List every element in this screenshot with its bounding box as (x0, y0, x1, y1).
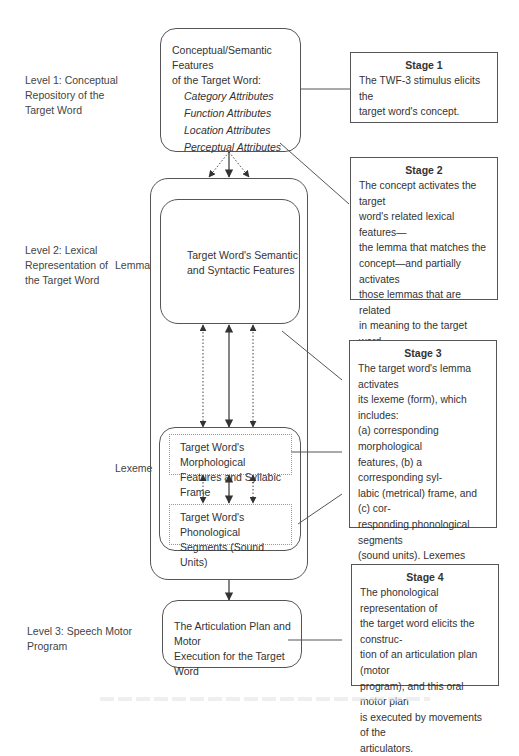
stage1-text: The TWF-3 stimulus elicits the target wo… (359, 73, 489, 120)
stage-line: word's related lexical features— (359, 211, 454, 238)
level2-line: Representation of (25, 258, 108, 273)
morphological-box: Target Word's Morphological Features and… (169, 434, 292, 475)
lemma-line: and Syntactic Features (187, 263, 298, 278)
stage-line: The concept activates the target (359, 180, 476, 207)
stage-line: target word's concept. (359, 106, 459, 117)
level1-line: Repository of the (25, 88, 118, 103)
level1-line: Target Word (25, 103, 118, 118)
stage2-text: The concept activates the target word's … (359, 178, 489, 365)
motor-text: The Articulation Plan and Motor Executio… (174, 619, 301, 679)
morph-line: Features and Syllabic Frame (180, 470, 291, 500)
stage-line: those lemmas that are related (359, 289, 461, 316)
stage1-title: Stage 1 (359, 59, 489, 71)
attribute-list: Category Attributes Function Attributes … (184, 88, 300, 156)
level2-line: Level 2: Lexical (25, 243, 108, 258)
stage-line: (a) corresponding morphological (358, 425, 439, 452)
stage2-box: Stage 2 The concept activates the target… (350, 157, 498, 300)
phon-line: Target Word's Phonological (180, 510, 291, 540)
stage-line: The TWF-3 stimulus elicits the (359, 75, 480, 102)
stage4-title: Stage 4 (360, 571, 490, 583)
stage4-text: The phonological representation of the t… (360, 585, 490, 756)
concept-heading-line: of the Target Word: (172, 73, 300, 88)
motor-line: The Articulation Plan and Motor (174, 619, 301, 649)
stage-line: tion of an articulation plan (motor (360, 649, 477, 676)
level2-label: Level 2: Lexical Representation of the T… (25, 243, 108, 288)
phonological-box: Target Word's Phonological Segments (Sou… (169, 504, 292, 545)
stage-line: program), and this oral motor plan (360, 681, 464, 708)
stage-line: the lemma that matches the (359, 242, 486, 253)
level1-label: Level 1: Conceptual Repository of the Ta… (25, 73, 118, 118)
stage-line: articulators. (360, 743, 413, 754)
phon-text: Target Word's Phonological Segments (Sou… (180, 510, 291, 570)
lemma-box: Target Word's Semantic and Syntactic Fea… (160, 199, 300, 324)
level2-line: the Target Word (25, 273, 108, 288)
level3-label: Level 3: Speech Motor Program (27, 624, 132, 654)
stage-line: the target word elicits the construc- (360, 618, 474, 645)
morph-line: Target Word's Morphological (180, 440, 291, 470)
concept-heading: Conceptual/Semantic Features of the Targ… (172, 43, 300, 88)
stage3-box: Stage 3 The target word's lemma activate… (349, 340, 497, 528)
stage-line: its lexeme (form), which includes: (358, 394, 467, 421)
attribute-item: Perceptual Attributes (184, 139, 300, 156)
stage2-title: Stage 2 (359, 164, 489, 176)
level3-line: Level 3: Speech Motor (27, 624, 132, 639)
motor-line: Execution for the Target Word (174, 649, 301, 679)
stage-line: features, (b) a corresponding syl- (358, 457, 442, 484)
stage4-box: Stage 4 The phonological representation … (351, 564, 499, 686)
lexeme-label: Lexeme (115, 462, 152, 474)
attribute-item: Function Attributes (184, 105, 300, 122)
stage-line: The phonological representation of (360, 587, 438, 614)
concept-box: Conceptual/Semantic Features of the Targ… (160, 28, 301, 152)
figure-caption-fragment (100, 697, 430, 701)
stage-line: is executed by movements of the (360, 712, 482, 739)
level1-line: Level 1: Conceptual (25, 73, 118, 88)
concept-heading-line: Conceptual/Semantic Features (172, 43, 300, 73)
stage3-title: Stage 3 (358, 347, 488, 359)
stage-line: responding phonological segments (358, 519, 470, 546)
attribute-item: Location Attributes (184, 122, 300, 139)
morph-text: Target Word's Morphological Features and… (180, 440, 291, 500)
lexeme-box: Target Word's Morphological Features and… (159, 427, 301, 551)
lemma-text: Target Word's Semantic and Syntactic Fea… (187, 248, 298, 278)
stage-line: The target word's lemma activates (358, 363, 471, 390)
level3-line: Program (27, 639, 132, 654)
lemma-label: Lemma (115, 259, 150, 271)
attribute-item: Category Attributes (184, 88, 300, 105)
phon-line: Segments (Sound Units) (180, 540, 291, 570)
lemma-line: Target Word's Semantic (187, 248, 298, 263)
stage-line: concept—and partially activates (359, 258, 461, 285)
stage-line: labic (metrical) frame, and (c) cor- (358, 488, 477, 515)
stage1-box: Stage 1 The TWF-3 stimulus elicits the t… (350, 52, 498, 123)
motor-execution-box: The Articulation Plan and Motor Executio… (162, 600, 302, 668)
